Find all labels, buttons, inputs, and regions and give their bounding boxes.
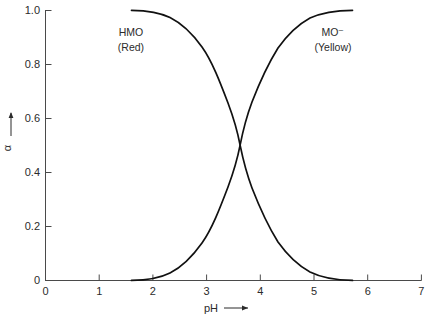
annotation-mo-color: (Yellow) xyxy=(315,41,352,53)
x-tick-label-5: 5 xyxy=(311,285,317,297)
x-axis-title: pH xyxy=(204,302,218,314)
y-tick-label-1.0: 1.0 xyxy=(25,4,40,16)
annotation-hmo-color: (Red) xyxy=(118,41,144,53)
y-tick-label-0: 0 xyxy=(34,274,40,286)
x-tick-label-6: 6 xyxy=(365,285,371,297)
y-axis-title: α xyxy=(1,144,13,151)
y-tick-label-0.8: 0.8 xyxy=(25,58,40,70)
annotation-hmo-name: HMO xyxy=(119,26,144,38)
chart-background xyxy=(0,0,431,319)
x-tick-label-0: 0 xyxy=(42,285,48,297)
y-tick-label-0.4: 0.4 xyxy=(25,166,40,178)
y-tick-label-0.6: 0.6 xyxy=(25,112,40,124)
annotation-mo-name: MO⁻ xyxy=(322,26,345,38)
x-tick-label-1: 1 xyxy=(96,285,102,297)
y-tick-label-0.2: 0.2 xyxy=(25,220,40,232)
x-tick-label-2: 2 xyxy=(150,285,156,297)
x-tick-label-4: 4 xyxy=(257,285,263,297)
x-tick-label-7: 7 xyxy=(418,285,424,297)
x-tick-label-3: 3 xyxy=(204,285,210,297)
titration-fraction-chart: 1.0 0.8 0.6 0.4 0.2 0 0 1 2 3 4 5 6 7 pH… xyxy=(0,0,431,319)
